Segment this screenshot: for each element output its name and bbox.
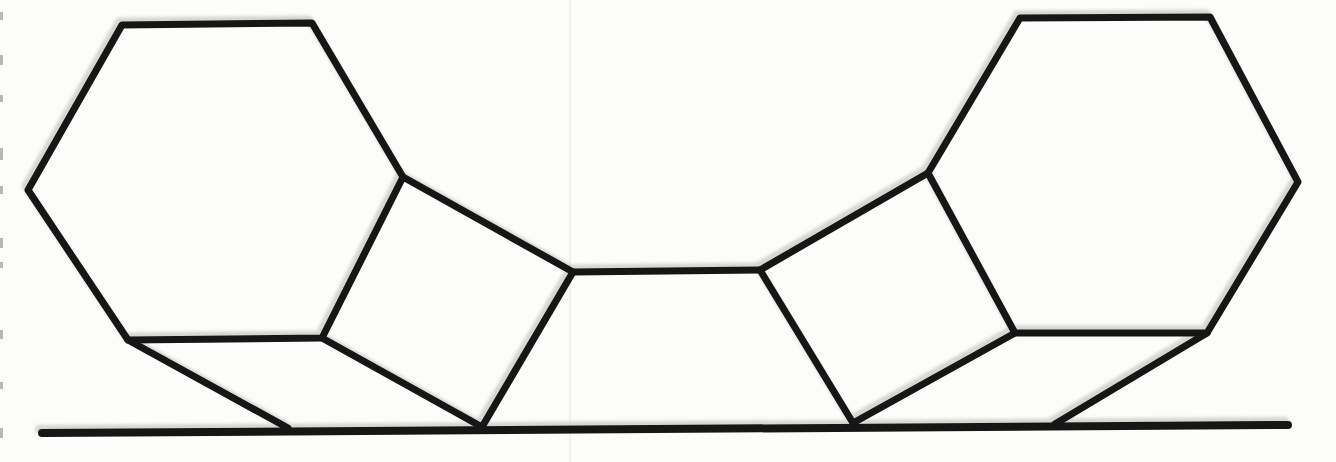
ink-layer <box>28 17 1298 433</box>
scan-speck <box>0 148 3 160</box>
scan-crease <box>569 0 571 462</box>
scan-speck <box>0 55 3 65</box>
ghost-right-strut <box>1052 329 1204 420</box>
right-square <box>760 173 1015 423</box>
scan-speck <box>0 382 3 389</box>
scan-speck <box>0 330 3 339</box>
left-square <box>322 177 573 427</box>
hexagon-square-linkage-figure <box>0 0 1336 462</box>
scan-speck <box>0 95 3 102</box>
scan-speck <box>0 186 3 194</box>
right-strut <box>1055 333 1207 424</box>
left-strut <box>128 340 288 428</box>
scan-speck <box>0 12 3 20</box>
center-bar <box>573 270 760 272</box>
ghost-left-square <box>319 173 570 423</box>
scan-speck <box>0 238 3 248</box>
scan-speck <box>0 428 3 438</box>
scanned-diagram-page <box>0 0 1336 462</box>
left-hexagon <box>28 23 403 340</box>
scan-speck <box>0 262 3 268</box>
ghost-right-square <box>757 169 1012 419</box>
photocopy-ghost-layer <box>25 13 1295 429</box>
